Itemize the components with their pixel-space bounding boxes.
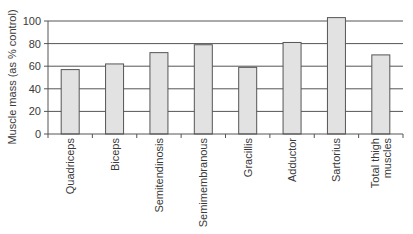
bar-total-thigh-muscles [372, 55, 390, 134]
y-tick-label: 20 [29, 105, 41, 117]
y-tick-label: 100 [23, 15, 41, 27]
y-axis-title: Muscle mass (as % control) [6, 9, 18, 144]
y-tick-label: 80 [29, 38, 41, 50]
bar-semimembranous [194, 45, 212, 134]
bar-semitendinosis [150, 53, 168, 134]
x-axis-ticks [48, 134, 403, 138]
bar-adductor [283, 42, 301, 134]
y-tick-label: 0 [35, 128, 41, 140]
y-tick-label: 60 [29, 60, 41, 72]
x-tick-label: Total thigh [369, 138, 381, 188]
x-tick-label: Sartorius [330, 138, 342, 183]
bar-chart: Muscle mass (as % control) 020406080100 … [0, 0, 413, 234]
y-axis-label: Muscle mass (as % control) [6, 9, 18, 144]
bars [61, 18, 390, 134]
x-tick-label: Biceps [109, 138, 121, 172]
bar-sartorius [327, 18, 345, 134]
y-tick-label: 40 [29, 83, 41, 95]
bar-biceps [106, 64, 124, 134]
bar-quadriceps [61, 70, 79, 134]
x-tick-label: muscles [381, 138, 393, 179]
x-tick-label: Semimembranous [197, 138, 209, 228]
x-tick-label: Gracillis [242, 138, 254, 178]
bar-gracillis [239, 67, 257, 134]
gridlines [48, 21, 403, 111]
x-tick-label: Adductor [286, 138, 298, 182]
x-tick-label: Semitendinosis [153, 138, 165, 213]
x-tick-label: Quadriceps [64, 138, 76, 195]
y-axis-ticks: 020406080100 [23, 15, 48, 140]
axes [48, 21, 403, 134]
x-axis-labels: QuadricepsBicepsSemitendinosisSemimembra… [64, 138, 393, 228]
